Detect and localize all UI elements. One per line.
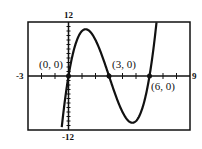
chart-plot bbox=[0, 0, 202, 149]
x-max-label: 9 bbox=[192, 72, 197, 81]
annotation-3-0: (3, 0) bbox=[112, 59, 136, 70]
y-max-label: 12 bbox=[64, 11, 73, 20]
x-min-label: -3 bbox=[16, 72, 24, 81]
annotation-0-0: (0, 0) bbox=[39, 59, 63, 70]
y-min-label: -12 bbox=[62, 133, 74, 142]
annotation-6-0: (6, 0) bbox=[151, 81, 175, 92]
